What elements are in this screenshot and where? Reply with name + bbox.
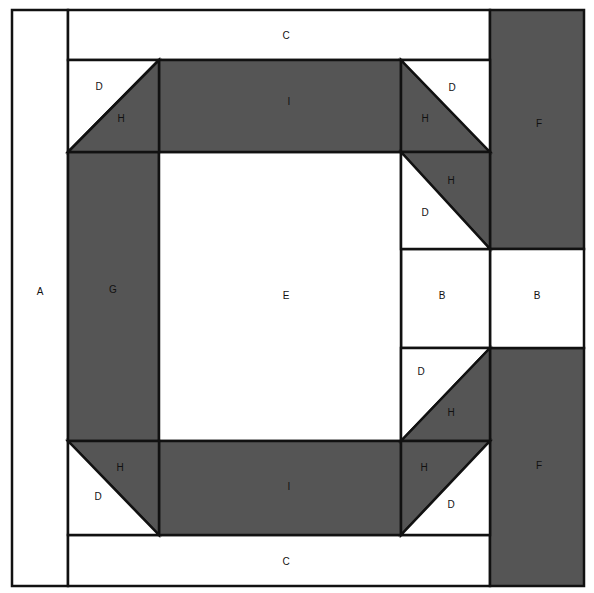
piece-label-d-br: D	[447, 499, 454, 510]
piece-label-d-tl: D	[95, 81, 102, 92]
piece-label-h-bl: H	[116, 462, 123, 473]
piece-label-h-r2: H	[447, 407, 454, 418]
piece-label-h-r1: H	[447, 175, 454, 186]
piece-b-mid	[401, 249, 490, 348]
piece-label-h-tr: H	[421, 113, 428, 124]
piece-label-d-r1: D	[421, 207, 428, 218]
piece-label-c-bottom: C	[282, 556, 289, 567]
piece-label-e: E	[283, 290, 290, 301]
piece-label-d-r2: D	[417, 366, 424, 377]
piece-e	[159, 152, 401, 441]
piece-label-h-br: H	[420, 462, 427, 473]
piece-f-top	[490, 10, 584, 249]
piece-label-i-top: I	[288, 96, 291, 107]
piece-i-top	[159, 60, 401, 152]
piece-label-a: A	[37, 286, 44, 297]
piece-label-g: G	[109, 284, 117, 295]
piece-c-top	[68, 10, 490, 60]
piece-label-f-bottom: F	[536, 460, 542, 471]
piece-c-bottom	[68, 535, 490, 586]
piece-label-b-right: B	[534, 290, 541, 301]
piece-label-d-bl: D	[94, 491, 101, 502]
piece-label-b-mid: B	[439, 290, 446, 301]
piece-label-f-top: F	[536, 118, 542, 129]
piece-label-c-top: C	[282, 30, 289, 41]
piece-label-h-tl: H	[117, 113, 124, 124]
quilt-block-diagram: ACCFFBBGEIIDHHDHDDHHDHD	[0, 0, 594, 593]
piece-a	[12, 10, 68, 586]
piece-label-d-tr: D	[448, 82, 455, 93]
piece-g	[68, 152, 159, 441]
piece-i-bottom	[159, 441, 401, 535]
piece-label-i-bottom: I	[288, 481, 291, 492]
